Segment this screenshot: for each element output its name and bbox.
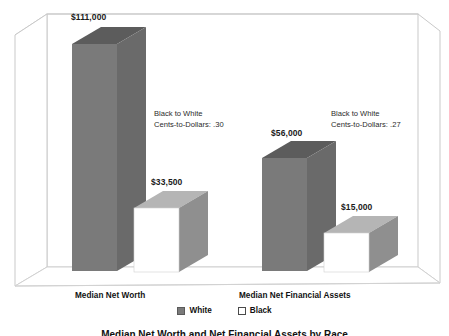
bar-front-face xyxy=(134,208,179,272)
annotation-right-line1: Black to White xyxy=(331,108,401,119)
category-label-median-net-worth: Median Net Worth xyxy=(75,291,145,300)
value-label-white-net-financial-assets: $56,000 xyxy=(271,129,302,139)
bar-front-face xyxy=(262,158,307,271)
annotation-right-net-financial-assets: Black to White Cents-to-Dollars: .27 xyxy=(331,108,401,130)
value-label-black-net-financial-assets: $15,000 xyxy=(341,203,372,213)
value-label-black-net-worth: $33,500 xyxy=(151,178,182,188)
chart-bottom-title: Median Net Worth and Net Financial Asset… xyxy=(0,329,449,336)
chart-legend: White Black xyxy=(0,306,449,315)
bar-front-face xyxy=(324,233,369,272)
legend-label-white: White xyxy=(189,306,211,315)
plot-left-wall xyxy=(15,14,47,286)
legend-label-black: Black xyxy=(250,306,272,315)
bar-front-face xyxy=(72,44,117,271)
value-label-white-net-worth: $111,000 xyxy=(71,13,106,23)
plot-right-edge xyxy=(418,31,440,283)
annotation-left-line2: Cents-to-Dollars: .30 xyxy=(154,119,224,130)
annotation-left-line1: Black to White xyxy=(154,108,224,119)
legend-item-white[interactable]: White xyxy=(177,306,211,315)
legend-swatch-filled-square-icon xyxy=(177,307,185,315)
legend-swatch-hollow-square-icon xyxy=(238,307,246,315)
category-label-median-net-financial-assets: Median Net Financial Assets xyxy=(239,291,351,300)
annotation-left-net-worth: Black to White Cents-to-Dollars: .30 xyxy=(154,108,224,130)
chart-3d-canvas xyxy=(0,0,449,336)
bar-black-median-net-worth[interactable] xyxy=(134,191,208,272)
legend-item-black[interactable]: Black xyxy=(238,306,272,315)
annotation-right-line2: Cents-to-Dollars: .27 xyxy=(331,119,401,130)
chart-container: $111,000 $33,500 $56,000 $15,000 Black t… xyxy=(0,0,449,336)
